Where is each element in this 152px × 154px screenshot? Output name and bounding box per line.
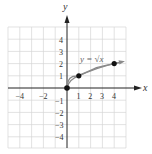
- x-axis: [8, 86, 142, 91]
- point-1-1: [76, 73, 81, 78]
- y-tick-label: 2: [59, 60, 63, 69]
- x-axis-label: x: [142, 82, 148, 93]
- x-tick-label: 1: [77, 92, 81, 101]
- y-tick-label: −2: [55, 109, 64, 118]
- equation-label: y = √x: [79, 54, 104, 64]
- y-axis-label: y: [62, 1, 68, 12]
- y-tick-label: 4: [59, 36, 63, 45]
- y-tick-label: −4: [55, 133, 64, 142]
- curve-arrow-icon: [119, 60, 126, 64]
- y-tick-label: 3: [59, 48, 63, 57]
- y-tick-label: −3: [55, 121, 64, 130]
- y-axis-arrow-icon: [65, 15, 70, 23]
- x-axis-arrow-icon: [134, 86, 142, 91]
- x-tick-label: 3: [100, 92, 104, 101]
- sqrt-curve: [67, 62, 121, 88]
- point-origin: [64, 85, 70, 91]
- x-tick-labels: −4 −2 1 2 3 4: [16, 92, 116, 101]
- y-tick-label: −1: [55, 97, 64, 106]
- y-tick-label: 1: [59, 72, 63, 81]
- x-tick-label: 4: [112, 92, 116, 101]
- sqrt-curve-smooth: [67, 62, 121, 88]
- x-tick-label: −2: [39, 92, 48, 101]
- x-tick-label: 2: [88, 92, 92, 101]
- graph: x y −4 −2 1 2 3 4 4 3 2 1 −1 −2 −3 −4 y …: [0, 0, 152, 154]
- x-tick-label: −4: [16, 92, 25, 101]
- point-4-2: [112, 61, 117, 66]
